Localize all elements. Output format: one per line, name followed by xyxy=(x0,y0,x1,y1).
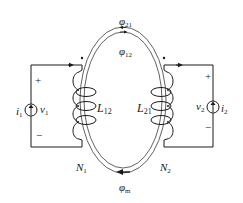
left-minus-sign: − xyxy=(36,129,42,141)
right-coil-icon xyxy=(164,70,173,140)
label-phim: φm xyxy=(119,181,131,195)
right-minus-sign: − xyxy=(205,121,211,133)
label-N1: N1 xyxy=(75,161,87,175)
label-L21: L21 xyxy=(136,101,152,116)
label-v1: v1 xyxy=(40,103,49,117)
left-circuit: + − i1 v1 L12 N1 xyxy=(16,57,112,175)
label-L12: L12 xyxy=(96,101,112,116)
left-coil-icon xyxy=(73,70,82,140)
label-phi21: φ21 xyxy=(119,15,133,29)
label-N2: N2 xyxy=(159,161,171,175)
left-plus-sign: + xyxy=(35,74,41,86)
coupled-coils-diagram: + − i1 v1 L12 N1 + − v2 i2 L21 N2 φ21 φ1… xyxy=(0,0,243,203)
right-plus-sign: + xyxy=(205,70,211,82)
left-polarity-dot-icon xyxy=(81,57,83,59)
label-v2: v2 xyxy=(196,100,205,114)
current-source-i1-icon xyxy=(25,104,37,116)
label-i1: i1 xyxy=(16,105,23,119)
right-polarity-dot-icon xyxy=(163,57,165,59)
label-i2: i2 xyxy=(221,102,228,116)
current-source-i2-icon xyxy=(207,101,219,113)
label-phi12: φ12 xyxy=(119,45,133,59)
